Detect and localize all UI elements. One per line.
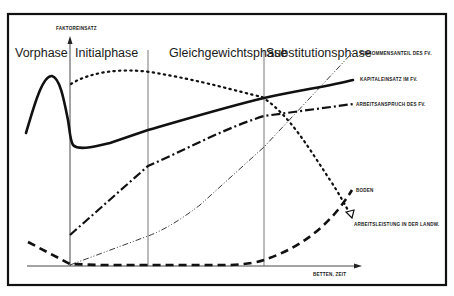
series-label-arbeitsanspruch: ARBEITSANSPRUCH DES FV. (356, 102, 426, 107)
series-label-einkommensanteil: EINKOMMENSANTEIL DES FV. (360, 51, 432, 56)
y-axis-arrow-icon (68, 36, 73, 44)
series-label-kapitaleinsatz: KAPITALEINSATZ IM FV. (360, 77, 417, 82)
series-einkommensanteil (70, 53, 352, 265)
series-kapitaleinsatz (26, 76, 353, 148)
phase-label-substitutionsphase: Substitutionsphase (266, 46, 372, 60)
phase-label-initialphase: Initialphase (75, 46, 138, 60)
y-axis-label: FAKTOREINSATZ (56, 26, 97, 31)
phase-chart: FAKTOREINSATZ BETTEN, ZEIT Vorphase Init… (0, 0, 454, 296)
series-boden (28, 190, 352, 265)
phase-label-vorphase: Vorphase (15, 46, 68, 60)
series-label-boden: BODEN (356, 188, 374, 193)
series-label-arbeitsleistung: ARBEITSLEISTUNG IN DER LANDW. (354, 222, 439, 227)
x-axis-arrow-icon (354, 264, 362, 269)
arbeitsleistung-arrow-icon (346, 210, 354, 218)
x-axis-label: BETTEN, ZEIT (313, 272, 346, 277)
series-arbeitsanspruch (70, 104, 353, 235)
